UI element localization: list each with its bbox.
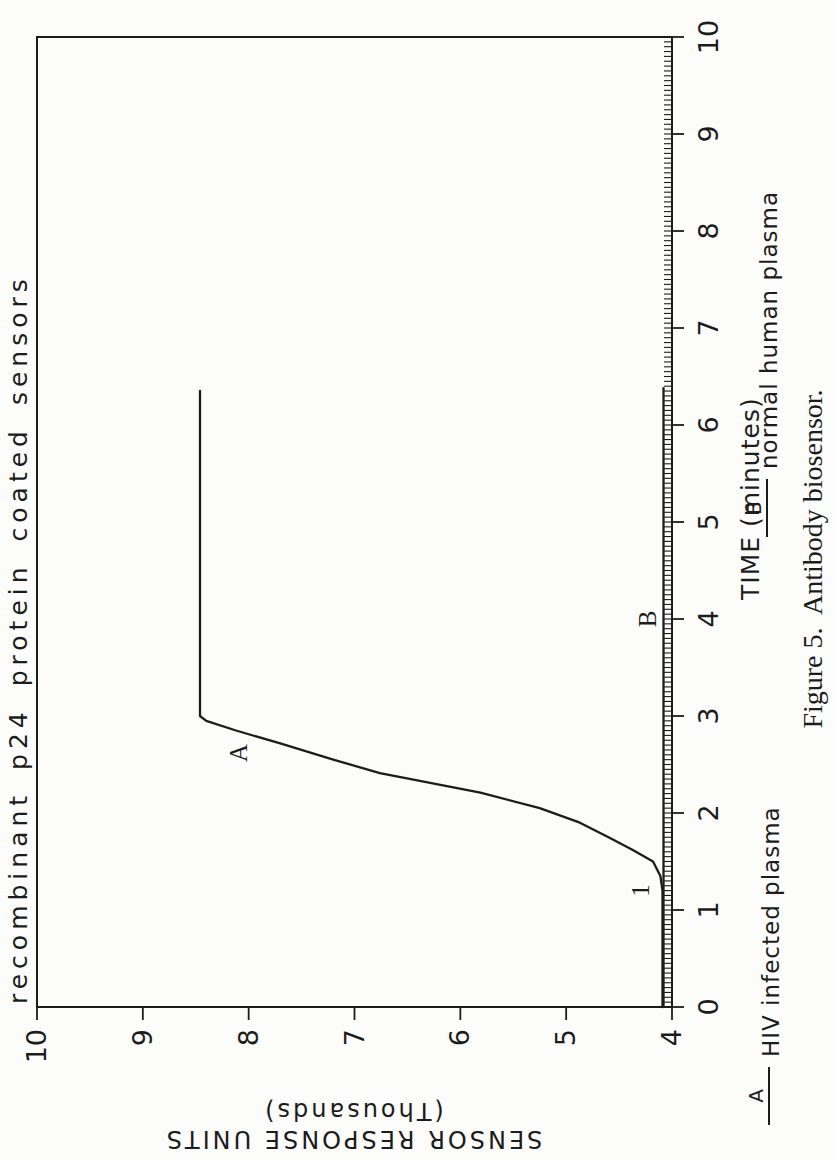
legend-key-b-letter: B <box>744 501 764 515</box>
legend-label-a: HIV infected plasma <box>758 806 784 1057</box>
chart-title: recombinant p24 protein coated sensors <box>4 104 33 1004</box>
legend-item-hiv-infected-plasma: A HIV infected plasma <box>746 806 784 1125</box>
y-axis-label-line2: (Thousands) <box>153 1097 553 1125</box>
x-tick-label-6: 6 <box>693 416 724 433</box>
rotated-figure-canvas: 012345678910456789101AB recombinant p24 … <box>0 0 836 1159</box>
x-tick-label-7: 7 <box>693 319 724 336</box>
scanned-figure-page: 012345678910456789101AB recombinant p24 … <box>0 0 836 1159</box>
y-tick-label-9: 9 <box>127 1029 158 1046</box>
x-tick-label-4: 4 <box>693 610 724 627</box>
y-tick-labels: 45678910 <box>21 1029 687 1063</box>
plot-frame <box>37 37 672 1007</box>
x-tick-label-0: 0 <box>693 998 724 1015</box>
annotation-B: B <box>634 611 661 628</box>
legend-key-a-letter: A <box>746 1089 766 1103</box>
x-tick-label-2: 2 <box>693 804 724 821</box>
y-tick-label-6: 6 <box>444 1029 475 1046</box>
x-tick-label-10: 10 <box>693 20 724 54</box>
y-tick-label-4: 4 <box>656 1029 687 1046</box>
y-axis-label: SENSOR RESPONSE UNITS (Thousands) <box>153 1097 553 1153</box>
legend-label-b: normal human plasma <box>756 191 782 469</box>
y-tick-label-5: 5 <box>550 1029 581 1046</box>
annotation-A: A <box>225 744 252 762</box>
y-tick-label-10: 10 <box>21 1029 52 1063</box>
series-A-line <box>200 391 663 1007</box>
legend-key-a: A <box>746 1067 770 1125</box>
y-tick-label-8: 8 <box>233 1029 264 1046</box>
x-minor-ticks <box>664 37 671 1007</box>
legend-key-b-line <box>766 479 768 537</box>
annotation-1: 1 <box>627 884 654 897</box>
y-major-ticks <box>37 1007 672 1020</box>
figure-caption: Figure 5. Antibody biosensor. <box>797 309 829 809</box>
x-major-ticks <box>672 37 684 1007</box>
y-axis-label-line1: SENSOR RESPONSE UNITS <box>153 1125 553 1153</box>
y-tick-label-7: 7 <box>339 1029 370 1046</box>
legend-key-a-line <box>768 1067 770 1125</box>
legend-key-b: B <box>744 479 768 537</box>
x-tick-labels: 012345678910 <box>693 20 724 1016</box>
x-tick-label-9: 9 <box>693 125 724 142</box>
legend-item-normal-human-plasma: B normal human plasma <box>744 191 782 537</box>
x-tick-label-5: 5 <box>693 513 724 530</box>
x-tick-label-3: 3 <box>693 707 724 724</box>
biosensor-line-chart: 012345678910456789101AB <box>0 0 836 1159</box>
x-tick-label-1: 1 <box>693 901 724 918</box>
x-tick-label-8: 8 <box>693 222 724 239</box>
